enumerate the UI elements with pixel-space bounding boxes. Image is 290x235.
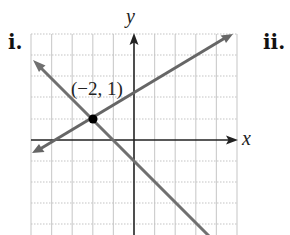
- point-label: (−2, 1): [71, 79, 123, 98]
- figure: i. ii. y x (−2, 1): [0, 0, 290, 235]
- panel-label-ii: ii.: [263, 32, 285, 52]
- intersection-point: [89, 115, 98, 124]
- coordinate-graph: [0, 0, 290, 235]
- x-axis-label: x: [242, 128, 251, 148]
- rising-line: [32, 34, 233, 153]
- panel-label-i: i.: [8, 32, 23, 52]
- y-axis-label: y: [126, 6, 135, 26]
- axes: [31, 33, 238, 235]
